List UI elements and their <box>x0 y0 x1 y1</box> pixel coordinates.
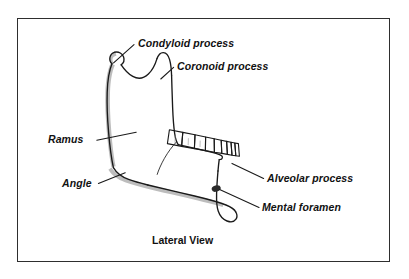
ramus-anterior-border <box>172 76 179 145</box>
tooth-premolar-2 <box>214 139 222 154</box>
label-coronoid-process: Coronoid process <box>177 60 268 72</box>
leader-alveolar <box>232 163 264 178</box>
mental-foramen <box>211 184 222 192</box>
leader-ramus <box>97 132 136 140</box>
condyle-outline <box>115 52 124 65</box>
sigmoid-notch <box>121 59 157 79</box>
inferior-border-shading <box>108 168 224 207</box>
label-mental-foramen: Mental foramen <box>262 201 341 213</box>
label-ramus: Ramus <box>48 133 84 145</box>
coronoid-process-outline <box>157 53 172 76</box>
label-condyloid-process: Condyloid process <box>138 37 234 49</box>
label-angle: Angle <box>62 177 92 189</box>
figure-root: Condyloid process Coronoid process Ramus… <box>0 0 409 279</box>
alveolar-anterior-border <box>218 160 219 171</box>
tooth-incisor-3 <box>235 143 240 156</box>
label-alveolar-process: Alveolar process <box>267 172 353 184</box>
figure-caption: Lateral View <box>152 234 213 246</box>
internal-oblique-line <box>157 142 176 174</box>
teeth-row <box>167 130 239 156</box>
tooth-premolar-1 <box>205 137 214 152</box>
